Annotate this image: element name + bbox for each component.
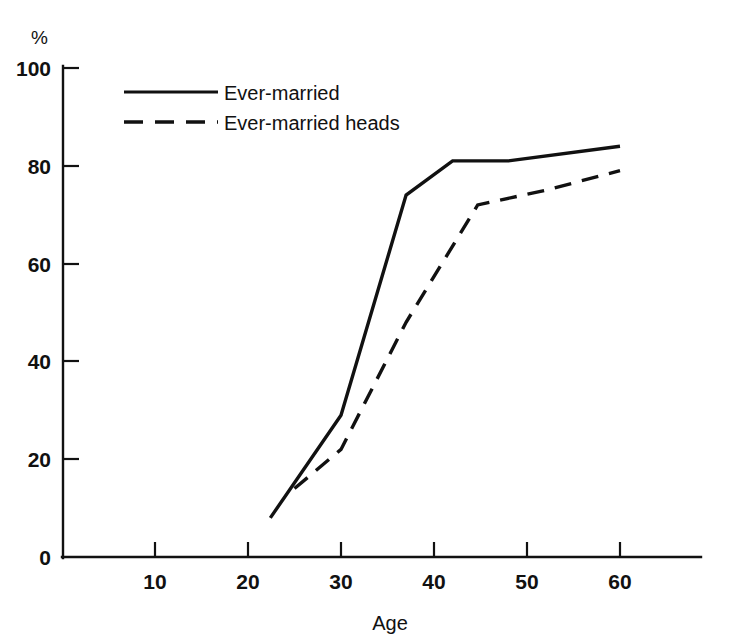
y-axis-unit-label: % (31, 27, 48, 48)
x-tick-label-60: 60 (608, 570, 631, 593)
x-tick-label-50: 50 (515, 570, 538, 593)
y-tick-label-20: 20 (28, 448, 51, 471)
x-tick-label-40: 40 (422, 570, 445, 593)
line-chart-canvas: % 100 80 60 40 20 0 10 20 30 (0, 0, 752, 637)
y-tick-label-60: 60 (28, 253, 51, 276)
x-tick-label-30: 30 (329, 570, 352, 593)
series-line-ever-married (270, 146, 620, 518)
y-tick-label-80: 80 (28, 155, 51, 178)
y-tick-label-100: 100 (16, 57, 51, 80)
chart-legend: Ever-married Ever-married heads (124, 82, 400, 134)
chart-figure: % 100 80 60 40 20 0 10 20 30 (0, 0, 752, 637)
x-tick-label-10: 10 (143, 570, 166, 593)
x-axis-title: Age (372, 612, 408, 634)
legend-label-ever-married-heads: Ever-married heads (224, 112, 400, 134)
y-axis-ticks: 100 80 60 40 20 0 (16, 57, 79, 569)
series-line-ever-married-heads (295, 171, 621, 489)
legend-label-ever-married: Ever-married (224, 82, 340, 104)
y-tick-label-40: 40 (28, 350, 51, 373)
x-tick-label-20: 20 (236, 570, 259, 593)
x-axis-ticks: 10 20 30 40 50 60 (143, 542, 631, 593)
y-tick-label-0: 0 (39, 546, 51, 569)
